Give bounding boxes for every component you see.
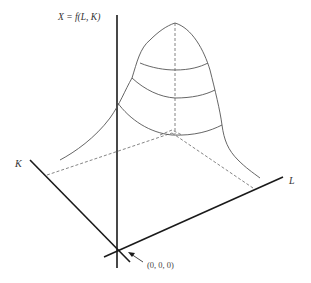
surface: [60, 23, 260, 178]
origin-label: (0, 0, 0): [147, 260, 174, 270]
k-axis-label: K: [14, 158, 23, 169]
origin-arrow: [128, 252, 143, 262]
dashed-projections: [47, 23, 253, 188]
vertical-axis-label: X = f(L, K): [57, 12, 100, 23]
l-axis-label: L: [288, 175, 295, 186]
l-axis: [104, 177, 283, 257]
k-axis: [30, 160, 130, 262]
production-surface-diagram: X = f(L, K) K L (0, 0, 0): [0, 0, 311, 283]
